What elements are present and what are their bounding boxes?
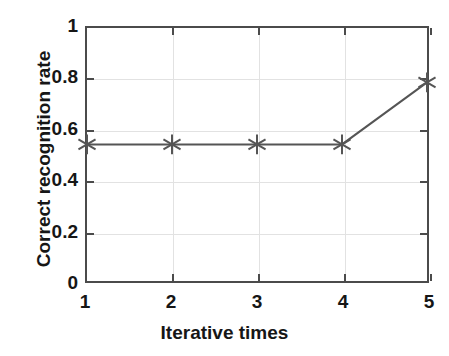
data-point-marker <box>418 73 435 93</box>
y-axis-title: Correct recognition rate <box>33 29 55 289</box>
plot-area <box>85 26 429 283</box>
x-axis-tick <box>430 28 432 35</box>
chart-figure: 00.20.40.60.81 12345 Iterative times Cor… <box>0 0 449 356</box>
series-markers <box>78 73 435 155</box>
x-axis-tick-label: 1 <box>80 292 91 311</box>
data-series-layer <box>87 28 427 281</box>
x-axis-tick-label: 3 <box>252 292 263 311</box>
x-axis-tick-label: 4 <box>338 292 349 311</box>
x-axis-tick-labels: 12345 <box>0 292 449 318</box>
x-axis-tick-label: 2 <box>166 292 177 311</box>
x-axis-tick <box>430 274 432 281</box>
x-axis-tick-label: 5 <box>424 292 435 311</box>
x-axis-title: Iterative times <box>0 322 449 344</box>
